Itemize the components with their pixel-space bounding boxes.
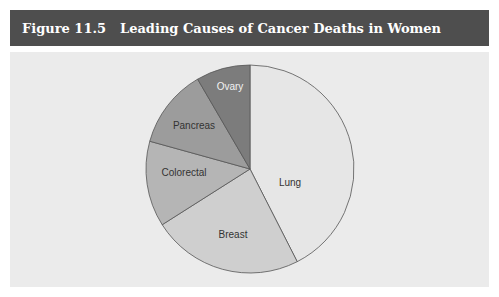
slice-label-colorectal: Colorectal bbox=[161, 167, 206, 178]
pie-chart: Lung Breast Colorectal Pancreas Ovary bbox=[10, 52, 489, 287]
figure-number: Figure 11.5 bbox=[22, 21, 106, 36]
slice-label-lung: Lung bbox=[279, 177, 301, 188]
chart-panel: Lung Breast Colorectal Pancreas Ovary bbox=[10, 52, 489, 287]
figure-title: Leading Causes of Cancer Deaths in Women bbox=[120, 21, 441, 36]
slice-label-pancreas: Pancreas bbox=[173, 120, 215, 131]
figure-title-bar: Figure 11.5 Leading Causes of Cancer Dea… bbox=[10, 10, 489, 46]
slice-label-ovary: Ovary bbox=[217, 81, 244, 92]
slice-label-breast: Breast bbox=[219, 229, 248, 240]
